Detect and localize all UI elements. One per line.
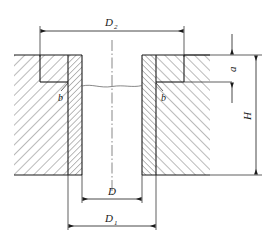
bushing-flange-right	[156, 55, 184, 82]
leader-label-b-right: b	[161, 92, 166, 103]
dim-label-a: a	[226, 66, 238, 72]
dim-sub-d1: 1	[114, 219, 118, 227]
dim-label-h: H	[241, 111, 253, 121]
dim-label-d: D	[107, 185, 116, 197]
engineering-drawing-canvas: D 2 D D 1 a	[0, 0, 272, 251]
bushing-wall-right	[142, 55, 156, 175]
bushing-wall-left	[68, 55, 82, 175]
leader-label-b-left: b	[58, 92, 63, 103]
dimension-d: D	[82, 175, 142, 203]
dim-label-d1: D	[104, 212, 113, 224]
dim-label-d2: D	[104, 16, 113, 28]
bushing-flange-left	[40, 55, 68, 82]
cross-section-svg: D 2 D D 1 a	[0, 0, 272, 251]
dim-sub-d2: 2	[114, 23, 118, 31]
dimension-h: H	[210, 56, 262, 175]
